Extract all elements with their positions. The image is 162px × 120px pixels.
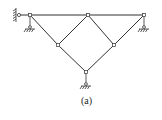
truss-nodes [28,13,145,73]
truss-node [142,13,145,16]
truss-node [28,13,31,16]
truss-member [30,15,58,45]
truss-node [86,13,89,16]
figure-caption: (a) [81,95,92,106]
pin-ground-support [138,15,149,32]
pin-ground-support [24,15,35,32]
supports [13,8,149,89]
truss-member [88,15,114,45]
truss-node [56,43,59,46]
truss-members [19,15,144,72]
truss-node [84,70,87,73]
truss-member [58,15,88,45]
truss-member [86,45,114,72]
fixed-wall-support [13,8,21,22]
pin-ground-support [80,72,91,89]
truss-node [112,43,115,46]
truss-member [58,45,86,72]
